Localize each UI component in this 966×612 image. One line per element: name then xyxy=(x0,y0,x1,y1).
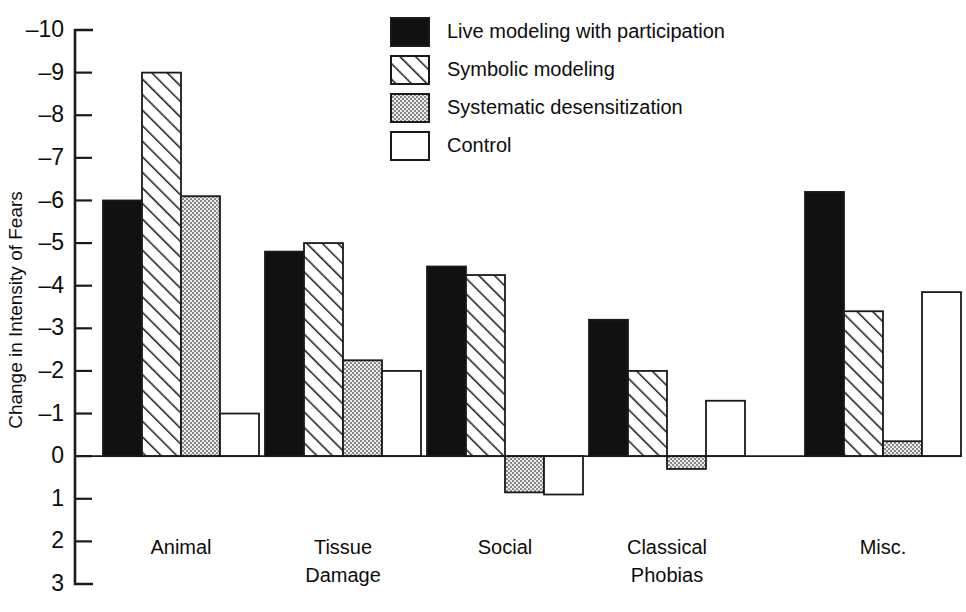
bar xyxy=(844,311,883,456)
bar xyxy=(883,441,922,456)
bar xyxy=(922,292,961,456)
y-axis-ticks: –10–9–8–7–6–5–4–3–2–10123 xyxy=(26,16,92,596)
y-tick-label: –3 xyxy=(38,314,64,340)
legend-swatch xyxy=(391,132,429,160)
bar-chart: –10–9–8–7–6–5–4–3–2–10123 AnimalTissueDa… xyxy=(0,0,966,612)
y-tick-label: –4 xyxy=(38,272,64,298)
y-tick-label: –1 xyxy=(38,400,64,426)
x-axis-label: Classical xyxy=(627,536,707,558)
x-axis-label: Phobias xyxy=(631,564,703,586)
bar xyxy=(427,267,466,457)
x-axis-label: Animal xyxy=(150,536,211,558)
bar xyxy=(667,456,706,469)
bar xyxy=(805,192,844,456)
y-tick-label: –6 xyxy=(38,187,64,213)
x-axis-label: Tissue xyxy=(314,536,372,558)
y-axis-spine xyxy=(75,30,93,584)
x-axis-label: Damage xyxy=(305,564,381,586)
bar xyxy=(142,73,181,457)
legend-label: Systematic desensitization xyxy=(447,96,683,118)
bar xyxy=(589,320,628,456)
chart-canvas: –10–9–8–7–6–5–4–3–2–10123 AnimalTissueDa… xyxy=(0,0,966,612)
bar xyxy=(706,401,745,456)
y-tick-label: –8 xyxy=(38,101,64,127)
legend-label: Live modeling with participation xyxy=(447,20,725,42)
legend-swatch xyxy=(391,18,429,46)
bar xyxy=(181,196,220,456)
legend-swatch xyxy=(391,94,429,122)
bar xyxy=(382,371,421,456)
legend-label: Symbolic modeling xyxy=(447,58,615,80)
y-tick-label: –7 xyxy=(38,144,64,170)
bar xyxy=(265,252,304,457)
y-axis-title: Change in Intensity of Fears xyxy=(5,191,26,429)
y-tick-label: 2 xyxy=(51,527,64,553)
bar xyxy=(304,243,343,456)
y-tick-label: –5 xyxy=(38,229,64,255)
y-axis-title-text: Change in Intensity of Fears xyxy=(5,191,26,429)
chart-legend: Live modeling with participationSymbolic… xyxy=(391,18,725,160)
y-tick-label: 1 xyxy=(51,485,64,511)
bar xyxy=(544,456,583,494)
bar xyxy=(220,414,259,457)
y-tick-label: 3 xyxy=(51,570,64,596)
y-tick-label: –9 xyxy=(38,59,64,85)
bar xyxy=(103,200,142,456)
y-tick-label: –10 xyxy=(26,16,64,42)
bar xyxy=(343,360,382,456)
legend-label: Control xyxy=(447,134,511,156)
x-axis-label: Misc. xyxy=(860,536,907,558)
bar xyxy=(466,275,505,456)
x-axis-labels: AnimalTissueDamageSocialClassicalPhobias… xyxy=(150,536,906,586)
y-tick-label: 0 xyxy=(51,442,64,468)
y-tick-label: –2 xyxy=(38,357,64,383)
bars-group xyxy=(103,73,961,495)
bar xyxy=(628,371,667,456)
y-axis xyxy=(75,30,93,584)
legend-swatch xyxy=(391,56,429,84)
bar xyxy=(505,456,544,492)
x-axis-label: Social xyxy=(478,536,532,558)
